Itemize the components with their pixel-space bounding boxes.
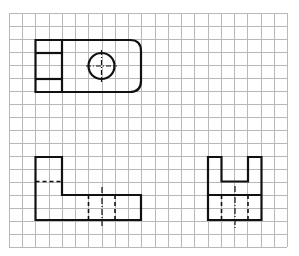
drawing-canvas bbox=[0, 0, 299, 256]
grid bbox=[9, 13, 288, 248]
